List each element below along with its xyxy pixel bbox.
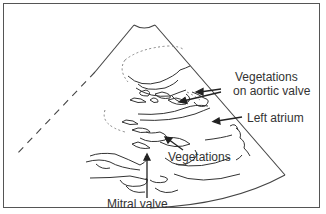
- dotted-contour-lower: [104, 110, 125, 132]
- label-vegetations-aortic-line1: Vegetations: [235, 70, 298, 84]
- arrowhead-mitral-valve: [144, 154, 150, 160]
- echo-sector-diagram: [0, 0, 326, 214]
- label-left-atrium: Left atrium: [247, 111, 304, 125]
- arrowhead-aortic-2: [179, 98, 187, 104]
- arrowhead-vegetations: [165, 137, 172, 143]
- sector-left-edge-dashed: [15, 72, 95, 156]
- arrowhead-left-atrium: [213, 118, 220, 124]
- label-vegetations-aortic-line2: on aortic valve: [233, 84, 310, 98]
- label-mitral-valve: Mitral valve: [107, 197, 168, 211]
- dotted-contour-left: [122, 60, 128, 82]
- sector-apex: [134, 25, 155, 28]
- sector-bottom-arc: [150, 175, 285, 208]
- arrows: [144, 89, 242, 199]
- vegetations-leader: [236, 155, 242, 160]
- sector-left-edge-solid: [95, 25, 134, 72]
- label-vegetations: Vegetations: [168, 150, 231, 164]
